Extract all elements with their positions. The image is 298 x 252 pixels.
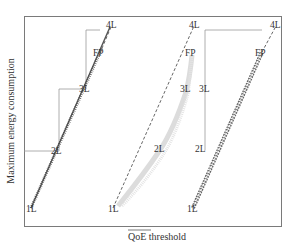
left-label-4L: 4L bbox=[106, 20, 117, 30]
left-label-FP: FP bbox=[93, 48, 104, 58]
middle-panel: 1L 2L 3L FP 4L bbox=[108, 20, 200, 214]
middle-label-1L: 1L bbox=[108, 204, 119, 214]
energy-qoe-chart: 1L 2L 3L FP 4L 1L 2L 3L FP 4L 1L 2L 3L F… bbox=[0, 0, 298, 252]
middle-label-3L: 3L bbox=[180, 84, 191, 94]
right-label-2L: 2L bbox=[195, 144, 206, 154]
right-label-4L: 4L bbox=[270, 20, 281, 30]
left-label-1L: 1L bbox=[26, 204, 37, 214]
left-panel: 1L 2L 3L FP 4L bbox=[24, 20, 117, 214]
x-axis-title: QoE threshold bbox=[128, 231, 186, 242]
middle-light-band-2 bbox=[122, 56, 192, 206]
middle-label-2L: 2L bbox=[154, 144, 165, 154]
middle-light-band bbox=[118, 55, 192, 206]
middle-dashed-line bbox=[113, 26, 194, 208]
left-label-2L: 2L bbox=[51, 146, 62, 156]
right-label-FP: FP bbox=[255, 48, 266, 58]
right-label-3L: 3L bbox=[199, 84, 210, 94]
left-label-3L: 3L bbox=[79, 84, 90, 94]
right-panel: 1L 2L 3L FP 4L bbox=[187, 20, 281, 214]
right-staircase bbox=[205, 30, 262, 150]
middle-label-FP: FP bbox=[185, 48, 196, 58]
y-axis-title: Maximum energy consumption bbox=[5, 58, 16, 183]
right-label-1L: 1L bbox=[187, 204, 198, 214]
middle-label-4L: 4L bbox=[189, 20, 200, 30]
plot-frame bbox=[25, 17, 282, 227]
